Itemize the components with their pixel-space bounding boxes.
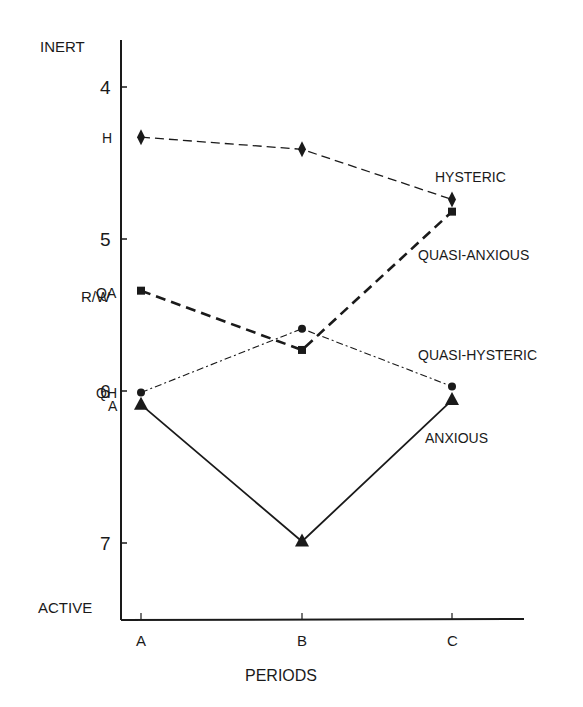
rw-label: R/W bbox=[81, 288, 111, 305]
series-line-a bbox=[141, 400, 452, 541]
square-marker-icon bbox=[448, 208, 456, 216]
line-chart: 4567 ABC HHYSTERICQAQUASI-ANXIOUSQHQUASI… bbox=[0, 0, 583, 707]
series-name-label: QUASI-ANXIOUS bbox=[418, 247, 529, 263]
series-line-qh bbox=[141, 329, 452, 393]
labels: INERT ACTIVE R/W PERIODS bbox=[38, 38, 317, 684]
diamond-marker-icon bbox=[298, 141, 306, 157]
x-axis bbox=[121, 619, 524, 620]
circle-marker-icon bbox=[298, 325, 306, 333]
series-lines: HHYSTERICQAQUASI-ANXIOUSQHQUASI-HYSTERIC… bbox=[96, 129, 537, 546]
series-line-qa bbox=[141, 212, 452, 350]
series-line-h bbox=[141, 137, 452, 199]
diamond-marker-icon bbox=[448, 191, 456, 207]
square-marker-icon bbox=[137, 287, 145, 295]
y-top-label: INERT bbox=[40, 38, 85, 55]
y-tick-label: 4 bbox=[100, 77, 111, 98]
y-tick-label: 5 bbox=[100, 229, 111, 250]
circle-marker-icon bbox=[137, 389, 145, 397]
triangle-marker-icon bbox=[445, 392, 459, 405]
x-tick-label: A bbox=[136, 632, 146, 649]
x-tick-label: C bbox=[447, 632, 458, 649]
series-name-label: QUASI-HYSTERIC bbox=[418, 347, 537, 363]
y-tick-label: 7 bbox=[100, 533, 111, 554]
triangle-marker-icon bbox=[295, 533, 309, 546]
x-tick-label: B bbox=[297, 632, 307, 649]
x-axis-title: PERIODS bbox=[245, 667, 317, 684]
y-bottom-label: ACTIVE bbox=[38, 599, 92, 616]
circle-marker-icon bbox=[448, 382, 456, 390]
series-short-label: H bbox=[102, 130, 112, 146]
triangle-marker-icon bbox=[134, 397, 148, 410]
series-name-label: HYSTERIC bbox=[435, 169, 506, 185]
square-marker-icon bbox=[298, 346, 306, 354]
y-ticks: 4567 bbox=[100, 77, 127, 554]
diamond-marker-icon bbox=[137, 129, 145, 145]
series-name-label: ANXIOUS bbox=[425, 430, 488, 446]
series-short-label: A bbox=[108, 398, 118, 414]
